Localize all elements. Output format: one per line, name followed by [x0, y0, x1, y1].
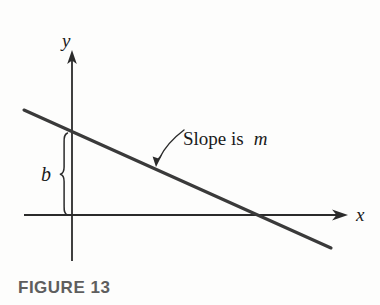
plotted-line [24, 110, 331, 248]
slope-pointer-arrowhead [153, 155, 163, 168]
slope-annotation-plain: Slope is [183, 128, 244, 149]
figure-caption: FIGURE 13 [18, 278, 110, 298]
slope-annotation-text: Slope is m [183, 128, 267, 149]
y-axis-label: y [60, 30, 71, 51]
figure-container: y x b Slope is m FIGURE 13 [0, 0, 380, 305]
intercept-label: b [41, 163, 51, 185]
slope-pointer-arrow [160, 130, 185, 158]
intercept-brace [60, 133, 67, 215]
slope-annotation-italic: m [254, 128, 268, 149]
line-graph-diagram: y x b Slope is m [0, 0, 380, 305]
x-axis-label: x [355, 204, 365, 225]
